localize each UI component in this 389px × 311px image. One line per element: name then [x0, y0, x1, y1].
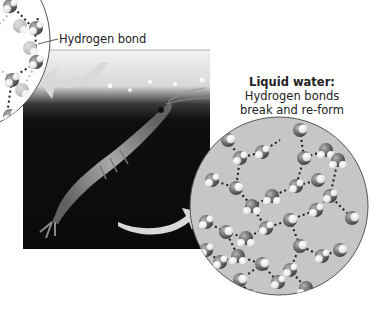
- krill-photo: [23, 50, 210, 249]
- liquid-water-title: Liquid water:: [232, 75, 352, 89]
- diagram-stage: Hydrogen bond Liquid water: Hydrogen bon…: [0, 0, 389, 311]
- hydrogen-bond-label: Hydrogen bond: [59, 32, 146, 46]
- liquid-water-line-2: break and re-form: [232, 103, 352, 117]
- liquid-water-caption: Liquid water: Hydrogen bonds break and r…: [232, 75, 352, 117]
- diagram-graphics: [0, 0, 389, 311]
- liquid-water-inset: [190, 117, 368, 303]
- liquid-water-line-1: Hydrogen bonds: [232, 89, 352, 103]
